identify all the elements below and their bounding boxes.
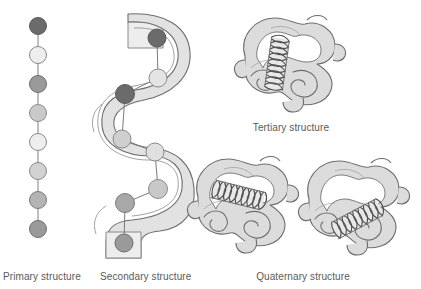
amino-acid-bead	[146, 143, 164, 161]
amino-acid-bead	[30, 221, 47, 238]
secondary-structure-panel: Secondary structure	[92, 14, 194, 282]
primary-structure-label: Primary structure	[3, 271, 81, 282]
quaternary-structure-panel: Quaternary structure	[187, 157, 409, 283]
amino-acid-bead	[116, 85, 135, 104]
amino-acid-bead	[30, 18, 47, 35]
amino-acid-bead	[116, 194, 135, 213]
amino-acid-bead	[148, 29, 166, 47]
secondary-structure-label: Secondary structure	[100, 271, 192, 282]
amino-acid-bead	[30, 47, 47, 64]
amino-acid-bead	[30, 134, 47, 151]
tertiary-structure-label: Tertiary structure	[253, 122, 330, 133]
quaternary-subunit-a	[187, 157, 298, 254]
tertiary-folded-protein	[234, 16, 345, 113]
figure-canvas: Primary structure	[0, 0, 421, 289]
quaternary-structure-label: Quaternary structure	[256, 271, 350, 282]
amino-acid-bead	[149, 69, 167, 87]
quaternary-subunit-b	[298, 159, 409, 256]
amino-acid-bead	[113, 130, 131, 148]
amino-acid-bead	[30, 192, 47, 209]
amino-acid-bead	[149, 180, 168, 199]
primary-structure-panel: Primary structure	[3, 18, 81, 283]
protein-structure-diagram: Primary structure	[0, 0, 421, 289]
amino-acid-bead	[115, 234, 133, 252]
amino-acid-bead	[30, 76, 47, 93]
helix-ribbon	[92, 14, 194, 258]
amino-acid-bead	[30, 163, 47, 180]
tertiary-structure-panel: Tertiary structure	[234, 16, 345, 134]
amino-acid-bead	[30, 105, 47, 122]
